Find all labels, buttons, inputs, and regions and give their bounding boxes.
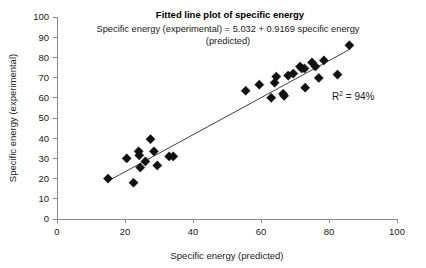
data-point-marker [241,86,250,95]
data-point-marker [103,174,112,183]
data-point-marker [333,70,342,79]
y-axis-ticks: 0102030405060708090100 [33,11,57,224]
y-tick-label: 50 [38,112,49,123]
data-point-marker [314,73,323,82]
y-tick-label: 70 [38,72,49,83]
x-tick-label: 80 [324,226,335,237]
x-tick-label: 40 [188,226,199,237]
x-tick-label: 60 [256,226,267,237]
chart-title: Fitted line plot of specific energy [156,9,305,20]
chart-axes [57,17,397,219]
svg-text:R2 = 94%: R2 = 94% [332,90,375,102]
y-tick-label: 10 [38,193,49,204]
chart-figure: Fitted line plot of specific energy Spec… [0,0,426,268]
data-point-marker [319,56,328,65]
x-tick-label: 20 [120,226,131,237]
chart-titles: Fitted line plot of specific energy Spec… [96,9,359,46]
y-axis-title: Specific energy (experimental) [7,54,18,182]
r-squared-value: = 94% [343,91,375,102]
data-point-marker [153,161,162,170]
data-point-marker [301,83,310,92]
x-axis-title: Specific energy (predicted) [171,250,284,261]
data-point-marker [129,178,138,187]
y-tick-label: 30 [38,153,49,164]
data-points-group [103,41,354,188]
data-point-marker [267,93,276,102]
y-tick-label: 40 [38,133,49,144]
data-point-marker [345,41,354,50]
y-tick-label: 80 [38,52,49,63]
chart-subtitle-line-2: (predicted) [206,36,250,46]
r-squared-label: R [332,91,339,102]
r-squared-annotation: R2 = 94% [332,90,375,102]
x-axis-ticks: 020406080100 [54,219,405,237]
scatter-plot-svg: Fitted line plot of specific energy Spec… [0,0,426,268]
y-tick-label: 60 [38,92,49,103]
x-tick-label: 0 [54,226,59,237]
data-point-marker [122,154,131,163]
data-point-marker [146,135,155,144]
y-tick-label: 100 [33,11,49,22]
chart-subtitle-line-1: Specific energy (experimental) = 5.032 +… [96,24,359,34]
data-point-marker [255,80,264,89]
x-tick-label: 100 [389,226,405,237]
y-tick-label: 20 [38,173,49,184]
y-tick-label: 90 [38,32,49,43]
y-tick-label: 0 [44,213,49,224]
